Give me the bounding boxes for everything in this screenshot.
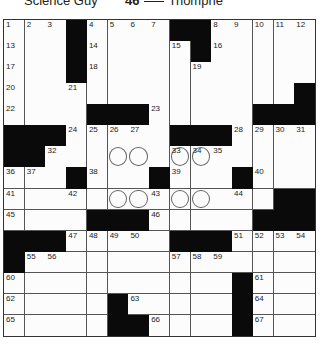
grid-cell[interactable] xyxy=(211,83,232,105)
grid-cell[interactable] xyxy=(45,294,66,316)
grid-cell[interactable] xyxy=(149,41,170,63)
grid-cell[interactable]: 59 xyxy=(211,252,232,274)
grid-cell[interactable]: 46 xyxy=(149,210,170,232)
grid-cell[interactable] xyxy=(128,167,149,189)
grid-cell[interactable] xyxy=(170,273,191,295)
grid-cell[interactable]: 57 xyxy=(170,252,191,274)
grid-cell[interactable]: 39 xyxy=(170,167,191,189)
grid-cell[interactable] xyxy=(25,294,46,316)
grid-cell[interactable] xyxy=(253,41,274,63)
grid-cell[interactable] xyxy=(232,252,253,274)
grid-cell[interactable] xyxy=(211,189,232,211)
grid-cell[interactable] xyxy=(274,294,295,316)
grid-cell[interactable]: 14 xyxy=(87,41,108,63)
grid-cell[interactable] xyxy=(253,83,274,105)
grid-cell[interactable]: 38 xyxy=(87,167,108,189)
grid-cell[interactable]: 31 xyxy=(294,125,315,147)
grid-cell[interactable]: 21 xyxy=(66,83,87,105)
grid-cell[interactable] xyxy=(108,189,129,211)
grid-cell[interactable]: 66 xyxy=(149,315,170,336)
grid-cell[interactable]: 22 xyxy=(4,104,25,126)
grid-cell[interactable] xyxy=(274,167,295,189)
grid-cell[interactable]: 61 xyxy=(253,273,274,295)
grid-cell[interactable]: 41 xyxy=(4,189,25,211)
grid-cell[interactable] xyxy=(232,104,253,126)
grid-cell[interactable]: 40 xyxy=(253,167,274,189)
grid-cell[interactable] xyxy=(108,273,129,295)
grid-cell[interactable]: 37 xyxy=(25,167,46,189)
grid-cell[interactable]: 51 xyxy=(232,231,253,253)
grid-cell[interactable]: 26 xyxy=(108,125,129,147)
grid-cell[interactable]: 58 xyxy=(191,252,212,274)
grid-cell[interactable]: 53 xyxy=(274,231,295,253)
grid-cell[interactable] xyxy=(170,104,191,126)
grid-cell[interactable] xyxy=(149,83,170,105)
grid-cell[interactable]: 42 xyxy=(66,189,87,211)
grid-cell[interactable] xyxy=(170,294,191,316)
grid-cell[interactable] xyxy=(253,189,274,211)
grid-cell[interactable]: 45 xyxy=(4,210,25,232)
grid-cell[interactable] xyxy=(87,315,108,336)
grid-cell[interactable] xyxy=(108,83,129,105)
grid-cell[interactable]: 48 xyxy=(87,231,108,253)
grid-cell[interactable] xyxy=(274,252,295,274)
grid-cell[interactable]: 25 xyxy=(87,125,108,147)
grid-cell[interactable] xyxy=(108,167,129,189)
grid-cell[interactable]: 18 xyxy=(87,62,108,84)
grid-cell[interactable] xyxy=(191,104,212,126)
grid-cell[interactable] xyxy=(232,146,253,168)
grid-cell[interactable]: 60 xyxy=(4,273,25,295)
grid-cell[interactable] xyxy=(45,273,66,295)
grid-cell[interactable] xyxy=(87,252,108,274)
grid-cell[interactable] xyxy=(45,41,66,63)
grid-cell[interactable] xyxy=(87,294,108,316)
grid-cell[interactable] xyxy=(211,294,232,316)
grid-cell[interactable] xyxy=(149,252,170,274)
grid-cell[interactable] xyxy=(108,252,129,274)
grid-cell[interactable]: 52 xyxy=(253,231,274,253)
grid-cell[interactable] xyxy=(191,83,212,105)
grid-cell[interactable]: 35 xyxy=(211,146,232,168)
grid-cell[interactable] xyxy=(87,146,108,168)
grid-cell[interactable] xyxy=(253,252,274,274)
grid-cell[interactable]: 10 xyxy=(253,20,274,42)
grid-cell[interactable]: 23 xyxy=(149,104,170,126)
grid-cell[interactable]: 13 xyxy=(4,41,25,63)
grid-cell[interactable]: 19 xyxy=(191,62,212,84)
grid-cell[interactable]: 43 xyxy=(149,189,170,211)
grid-cell[interactable] xyxy=(149,62,170,84)
grid-cell[interactable] xyxy=(66,273,87,295)
grid-cell[interactable]: 24 xyxy=(66,125,87,147)
grid-cell[interactable] xyxy=(128,273,149,295)
grid-cell[interactable] xyxy=(232,210,253,232)
grid-cell[interactable]: 12 xyxy=(294,20,315,42)
grid-cell[interactable] xyxy=(128,83,149,105)
grid-cell[interactable]: 5 xyxy=(108,20,129,42)
grid-cell[interactable] xyxy=(170,210,191,232)
grid-cell[interactable] xyxy=(191,189,212,211)
grid-cell[interactable] xyxy=(45,104,66,126)
grid-cell[interactable]: 64 xyxy=(253,294,274,316)
grid-cell[interactable] xyxy=(128,189,149,211)
grid-cell[interactable] xyxy=(294,315,315,336)
grid-cell[interactable] xyxy=(128,41,149,63)
grid-cell[interactable] xyxy=(253,146,274,168)
grid-cell[interactable]: 17 xyxy=(4,62,25,84)
grid-cell[interactable]: 36 xyxy=(4,167,25,189)
grid-cell[interactable] xyxy=(191,210,212,232)
grid-cell[interactable] xyxy=(128,62,149,84)
grid-cell[interactable] xyxy=(170,315,191,336)
grid-cell[interactable] xyxy=(274,41,295,63)
grid-cell[interactable] xyxy=(25,210,46,232)
grid-cell[interactable] xyxy=(274,62,295,84)
grid-cell[interactable] xyxy=(211,62,232,84)
grid-cell[interactable] xyxy=(191,167,212,189)
grid-cell[interactable] xyxy=(294,252,315,274)
grid-cell[interactable] xyxy=(294,294,315,316)
grid-cell[interactable]: 2 xyxy=(25,20,46,42)
grid-cell[interactable] xyxy=(211,315,232,336)
grid-cell[interactable]: 44 xyxy=(232,189,253,211)
grid-cell[interactable] xyxy=(294,146,315,168)
grid-cell[interactable] xyxy=(45,210,66,232)
grid-cell[interactable]: 47 xyxy=(66,231,87,253)
